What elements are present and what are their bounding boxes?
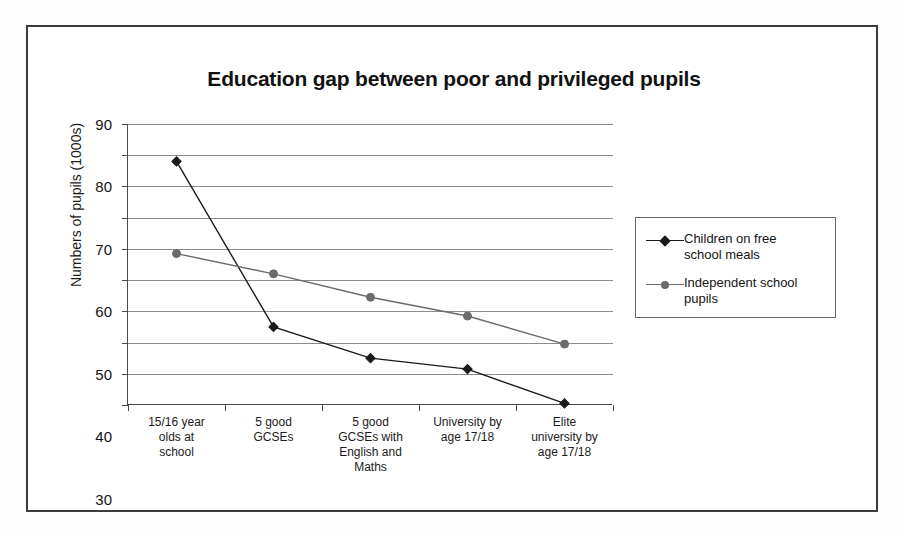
legend-marker-diamond-icon (646, 233, 684, 249)
x-axis-tick-label-line: age 17/18 (419, 430, 516, 445)
legend-item-2[interactable]: Independent schoolpupils (646, 275, 797, 307)
data-point-marker (172, 157, 181, 166)
legend-point-swatch (659, 235, 670, 246)
y-axis-title: Numbers of pupils (1000s) (68, 65, 84, 345)
x-axis-tick (613, 405, 614, 411)
gridline (128, 374, 613, 375)
x-axis-tick (419, 405, 420, 411)
y-axis-tick: 80 (122, 155, 128, 156)
x-axis-tick (516, 405, 517, 411)
y-axis-tick-label: 80 (95, 178, 112, 195)
x-axis-tick (322, 405, 323, 411)
x-axis-tick-label-line: GCSEs with (322, 430, 419, 445)
legend-label-line: school meals (684, 247, 777, 263)
x-axis-tick-label-line: 15/16 year (128, 415, 225, 430)
legend-point-swatch (661, 281, 669, 289)
x-axis-tick-label-line: University by (419, 415, 516, 430)
chart-screenshot: Education gap between poor and privilege… (0, 0, 900, 535)
series-line-1 (177, 161, 565, 403)
y-axis-tick-label: 30 (95, 490, 112, 507)
legend-item-1[interactable]: Children on freeschool meals (646, 231, 777, 263)
legend-label-line: Children on free (684, 231, 777, 247)
data-series-layer (128, 124, 613, 405)
x-axis-tick-label-line: Elite (516, 415, 613, 430)
x-axis-tick-label: University byage 17/18 (419, 415, 516, 445)
gridline (128, 218, 613, 219)
x-axis-tick-label-line: school (128, 445, 225, 460)
x-axis-tick-label: 5 goodGCSEs withEnglish andMaths (322, 415, 419, 475)
x-axis-tick (128, 405, 129, 411)
y-axis-tick-label: 90 (95, 116, 112, 133)
chart-legend: Children on freeschool mealsIndependent … (635, 217, 836, 318)
gridline (128, 155, 613, 156)
data-point-marker (173, 250, 181, 258)
gridline (128, 311, 613, 312)
y-axis-tick: 20 (122, 343, 128, 344)
x-axis-tick-label-line: 5 good (322, 415, 419, 430)
x-axis-tick (225, 405, 226, 411)
x-axis-tick-label-line: Maths (322, 460, 419, 475)
y-axis-tick-label: 60 (95, 303, 112, 320)
x-axis-tick-label-line: age 17/18 (516, 445, 613, 460)
y-axis-tick: 30 (122, 311, 128, 312)
data-point-marker (560, 399, 569, 408)
x-axis-tick-label: 15/16 yearolds atschool (128, 415, 225, 460)
data-point-marker (463, 364, 472, 373)
chart-title: Education gap between poor and privilege… (28, 67, 880, 91)
x-axis-tick-label: Eliteuniversity byage 17/18 (516, 415, 613, 460)
legend-label-line: Independent school (684, 275, 797, 291)
series-line-2 (177, 254, 565, 345)
y-axis-tick-label: 50 (95, 365, 112, 382)
gridline (128, 186, 613, 187)
y-axis-tick-label: 40 (95, 428, 112, 445)
legend-label: Children on freeschool meals (684, 231, 777, 263)
legend-label: Independent schoolpupils (684, 275, 797, 307)
plot-area: 0102030405060708090 15/16 yearolds atsch… (127, 124, 612, 405)
y-axis-tick: 40 (122, 280, 128, 281)
x-axis-tick-label-line: university by (516, 430, 613, 445)
y-axis-tick: 60 (122, 218, 128, 219)
gridline (128, 249, 613, 250)
data-point-marker (367, 293, 375, 301)
x-axis-tick-label-line: olds at (128, 430, 225, 445)
data-point-marker (269, 322, 278, 331)
x-axis-tick-label-line: 5 good (225, 415, 322, 430)
legend-label-line: pupils (684, 291, 797, 307)
chart-outer-frame: Education gap between poor and privilege… (26, 25, 878, 512)
gridline (128, 124, 613, 125)
data-point-marker (464, 312, 472, 320)
data-point-marker (366, 354, 375, 363)
y-axis-tick: 70 (122, 186, 128, 187)
gridline (128, 343, 613, 344)
data-point-marker (561, 340, 569, 348)
data-point-marker (270, 270, 278, 278)
gridline (128, 280, 613, 281)
x-axis-tick-label: 5 goodGCSEs (225, 415, 322, 445)
y-axis-tick: 10 (122, 374, 128, 375)
y-axis-tick: 90 (122, 124, 128, 125)
legend-marker-circle-icon (646, 277, 684, 293)
x-axis-tick-label-line: English and (322, 445, 419, 460)
y-axis-tick: 50 (122, 249, 128, 250)
x-axis-tick-label-line: GCSEs (225, 430, 322, 445)
y-axis-tick-label: 70 (95, 240, 112, 257)
